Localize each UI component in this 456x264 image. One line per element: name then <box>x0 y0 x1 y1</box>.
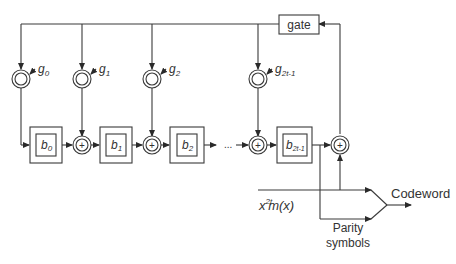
svg-text:+: + <box>149 140 155 151</box>
adder-final: + <box>331 136 349 154</box>
svg-text:g0: g0 <box>38 62 50 78</box>
encoder-diagram: gate g0 g1 g2 g2t-1 b0 b1 b <box>0 0 456 264</box>
gate-label: gate <box>287 18 311 32</box>
multiplier-g2t-1: g2t-1 <box>249 62 295 136</box>
register-b0: b0 <box>30 127 62 163</box>
register-b2: b2 <box>170 127 204 163</box>
register-b1: b1 <box>100 127 132 163</box>
svg-text:g2t-1: g2t-1 <box>275 62 295 78</box>
gate-block: gate <box>279 15 319 34</box>
ellipsis: ... <box>224 139 232 150</box>
svg-text:+: + <box>255 140 261 151</box>
svg-text:+: + <box>79 140 85 151</box>
register-b2t-1: b2t-1 <box>277 127 312 163</box>
svg-text:g2: g2 <box>169 62 181 78</box>
adder-1: + <box>73 136 91 154</box>
feedback-bus <box>21 24 340 134</box>
svg-text:+: + <box>337 140 343 151</box>
svg-text:g1: g1 <box>99 62 110 78</box>
codeword-label: Codeword <box>391 186 450 201</box>
parity-label-line2: symbols <box>326 236 370 250</box>
parity-label-line1: Parity <box>333 221 364 235</box>
multiplier-g2: g2 <box>143 62 181 136</box>
multiplier-g1: g1 <box>73 62 110 136</box>
adder-3: + <box>249 136 267 154</box>
input-label: x2tm(x) <box>258 197 294 213</box>
adder-2: + <box>143 136 161 154</box>
